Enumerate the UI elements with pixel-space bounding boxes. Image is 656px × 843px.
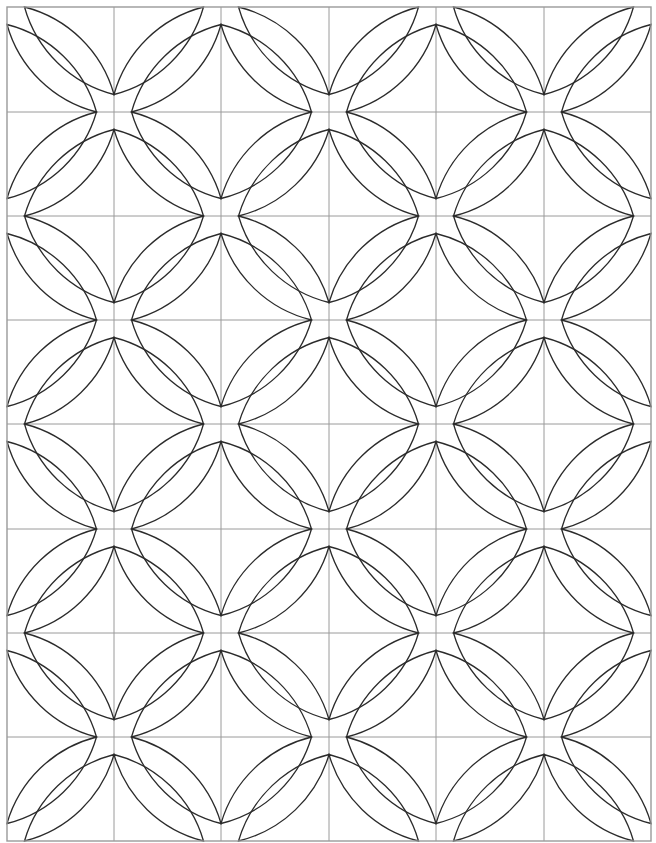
lens-shape [7, 737, 97, 824]
lens-shape [114, 633, 204, 720]
lens-shape [544, 7, 634, 95]
lens-shape [7, 529, 97, 616]
lens-shape [436, 529, 527, 616]
lens-shape [114, 547, 204, 634]
lens-shape [114, 338, 204, 425]
lens-shape [221, 320, 312, 407]
lens-shape [221, 651, 312, 738]
lens-shape [562, 737, 652, 824]
lens-shape [436, 112, 527, 199]
quilt-pattern-canvas [0, 0, 656, 843]
lens-shape [25, 7, 115, 95]
lens-shape [544, 216, 634, 303]
lens-shape [221, 529, 312, 616]
lens-shape [562, 112, 652, 199]
lens-shape [7, 651, 97, 738]
lens-shape [454, 633, 545, 720]
lens-shape [454, 547, 545, 634]
lens-shape [7, 25, 97, 113]
lens-shape [347, 529, 437, 616]
lens-shape [239, 755, 330, 842]
lens-shape [25, 216, 115, 303]
lens-shape [544, 547, 634, 634]
lens-shape [562, 442, 652, 530]
lens-shape [544, 633, 634, 720]
lens-shape [132, 442, 222, 530]
lens-shape [132, 320, 222, 407]
lens-shape [436, 737, 527, 824]
lens-shape [454, 424, 545, 512]
lens-shape [436, 651, 527, 738]
lens-shape [7, 320, 97, 407]
lens-shape [221, 112, 312, 199]
lens-shape [25, 338, 115, 425]
lens-shape [562, 651, 652, 738]
lens-shape [132, 529, 222, 616]
lens-shape [329, 755, 419, 842]
lens-shape [562, 320, 652, 407]
lens-shape [347, 320, 437, 407]
lens-shape [329, 7, 419, 95]
lens-shape [329, 216, 419, 303]
lens-shape [347, 234, 437, 321]
lens-shape [329, 424, 419, 512]
lens-shape [562, 25, 652, 113]
lens-shape [544, 424, 634, 512]
lens-shape [329, 547, 419, 634]
lens-shape [544, 755, 634, 842]
lens-shape [221, 234, 312, 321]
lens-shape [132, 737, 222, 824]
lens-shape [132, 25, 222, 113]
lens-shape [239, 130, 330, 217]
lens-shape [25, 424, 115, 512]
lens-shape [25, 633, 115, 720]
lens-shape [454, 338, 545, 425]
lens-shape [239, 7, 330, 95]
lens-shape [239, 338, 330, 425]
lens-shape [347, 737, 437, 824]
lens-shape [436, 234, 527, 321]
lens-shape [114, 216, 204, 303]
lens-shape [329, 130, 419, 217]
lens-shape [347, 25, 437, 113]
lens-shape [347, 442, 437, 530]
lens-shape [436, 25, 527, 113]
lens-shape [132, 651, 222, 738]
lens-shape [221, 25, 312, 113]
lens-shape [562, 529, 652, 616]
lens-shape [239, 424, 330, 512]
lens-shape [114, 7, 204, 95]
lens-shape [25, 130, 115, 217]
lens-shape [454, 755, 545, 842]
lens-shape [329, 338, 419, 425]
lens-shape [221, 442, 312, 530]
lens-shape [25, 755, 115, 842]
lens-shape [114, 424, 204, 512]
lens-shape [347, 651, 437, 738]
lens-shape [544, 130, 634, 217]
lens-shape [436, 320, 527, 407]
lens-shape [7, 112, 97, 199]
lens-shape [544, 338, 634, 425]
lens-shape [329, 633, 419, 720]
lens-shape [114, 130, 204, 217]
lens-shape [7, 234, 97, 321]
lens-shape [25, 547, 115, 634]
lens-shape [7, 442, 97, 530]
lens-shape [221, 737, 312, 824]
lens-shape [114, 755, 204, 842]
lens-shape [436, 442, 527, 530]
lens-shape [454, 7, 545, 95]
lens-shape [454, 130, 545, 217]
lens-shape [454, 216, 545, 303]
lens-shape [239, 216, 330, 303]
lens-shape [347, 112, 437, 199]
lens-shape [132, 234, 222, 321]
lens-shape [132, 112, 222, 199]
lens-shape [239, 633, 330, 720]
lens-shape [562, 234, 652, 321]
lens-shape [239, 547, 330, 634]
